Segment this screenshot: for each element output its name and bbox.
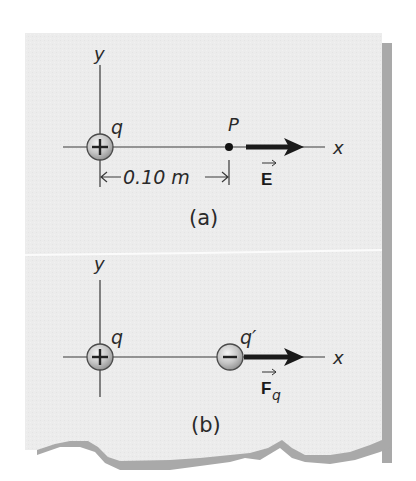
positive-charge-q bbox=[87, 344, 113, 370]
positive-charge-q bbox=[87, 134, 113, 160]
electric-field-figure: y x q P E 0.10 m (a) y bbox=[0, 0, 416, 481]
vector-e-label: E bbox=[261, 170, 272, 189]
point-p-label: P bbox=[228, 114, 239, 135]
y-axis-label: y bbox=[93, 43, 105, 64]
vector-f-label: F bbox=[261, 379, 271, 398]
x-axis-label: x bbox=[332, 137, 344, 158]
distance-label: 0.10 m bbox=[123, 166, 190, 188]
caption-b: (b) bbox=[191, 413, 221, 437]
x-axis-label: x bbox=[332, 347, 344, 368]
charge-q-label: q bbox=[111, 326, 123, 348]
charge-q-label: q bbox=[111, 116, 123, 138]
caption-a: (a) bbox=[189, 206, 218, 230]
point-p bbox=[225, 143, 233, 151]
y-axis-label: y bbox=[93, 253, 105, 274]
charge-q-prime-label: q′ bbox=[240, 326, 257, 348]
vector-f-subscript: q bbox=[272, 387, 281, 403]
paper-panel bbox=[25, 33, 382, 461]
